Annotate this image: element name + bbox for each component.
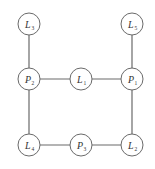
node-label: L	[76, 74, 83, 85]
node-P3: P3	[70, 134, 92, 156]
node-label: L	[24, 19, 31, 30]
node-label: P	[24, 74, 31, 85]
node-label: P	[76, 140, 83, 151]
node-subscript: 2	[135, 146, 138, 152]
node-subscript: 3	[32, 25, 35, 31]
nodes: L3L5P2L1P1L4P3L2	[18, 13, 143, 156]
node-P2: P2	[18, 68, 40, 90]
node-subscript: 2	[32, 80, 35, 86]
node-L1: L1	[70, 68, 92, 90]
node-subscript: 4	[32, 146, 35, 152]
node-subscript: 3	[84, 146, 87, 152]
node-P1: P1	[121, 68, 143, 90]
node-L5: L5	[121, 13, 143, 35]
node-label: L	[127, 140, 134, 151]
node-L3: L3	[18, 13, 40, 35]
node-L2: L2	[121, 134, 143, 156]
node-label: L	[24, 140, 31, 151]
node-L4: L4	[18, 134, 40, 156]
node-subscript: 1	[135, 80, 138, 86]
node-label: P	[127, 74, 134, 85]
graph-diagram: L3L5P2L1P1L4P3L2	[0, 0, 155, 169]
node-label: L	[127, 19, 134, 30]
node-subscript: 5	[135, 25, 138, 31]
node-subscript: 1	[84, 80, 87, 86]
